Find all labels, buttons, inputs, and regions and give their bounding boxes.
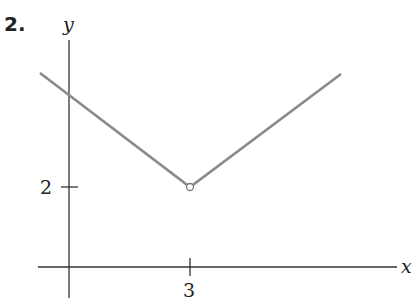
v-shaped-line bbox=[40, 73, 341, 187]
x-tick-label: 3 bbox=[183, 279, 195, 300]
y-axis-label: y bbox=[62, 13, 74, 35]
x-axis-label: x bbox=[401, 255, 412, 277]
y-tick-label: 2 bbox=[40, 176, 52, 198]
open-circle-point bbox=[187, 184, 194, 191]
absolute-value-graph: 3 2 x y bbox=[0, 0, 418, 300]
